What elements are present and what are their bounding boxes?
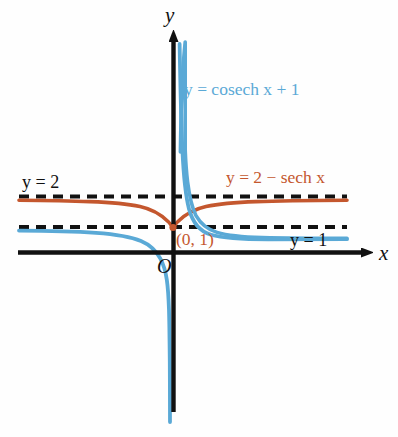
curve-blue-cosech-right-branch xyxy=(180,42,347,238)
origin-label: O xyxy=(157,256,171,276)
asymptote-label-y-2: y = 2 xyxy=(22,173,59,191)
x-axis-label: x xyxy=(379,243,388,264)
point-label-0-1: (0, 1) xyxy=(176,231,214,249)
curve-blue-cosech-left xyxy=(19,231,170,422)
graph-canvas xyxy=(0,0,398,437)
curve-blue-cosech-right xyxy=(180,44,347,239)
y-axis-label: y xyxy=(165,5,174,26)
curve-red-2-minus-sech xyxy=(19,200,347,227)
math-graph-figure: y x O y = cosech x + 1 y = 2 − sech x y … xyxy=(0,0,398,437)
asymptote-label-y-1: y = 1 xyxy=(290,231,327,249)
curve-red-annotation: y = 2 − sech x xyxy=(226,169,325,187)
curve-blue-annotation: y = cosech x + 1 xyxy=(184,81,299,99)
